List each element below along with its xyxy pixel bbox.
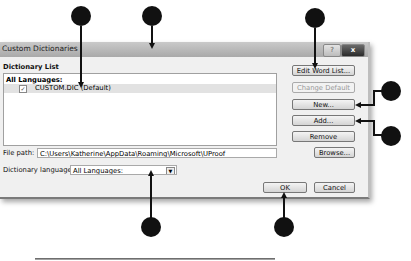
chevron-down-icon[interactable]: ▼: [166, 167, 175, 175]
edit-word-list-button[interactable]: Edit Word List...: [292, 65, 355, 76]
callout-marker-2: [142, 6, 162, 26]
browse-button[interactable]: Browse...: [314, 147, 355, 158]
dictionary-list[interactable]: All Languages: ✓ CUSTOM.DIC (Default): [3, 73, 277, 146]
dictionary-list-label: Dictionary List: [3, 63, 59, 71]
callout-line-2: [151, 26, 153, 44]
cancel-button[interactable]: Cancel: [314, 182, 355, 193]
dictionary-language-label: Dictionary language:: [3, 166, 74, 174]
callout-line-7: [283, 198, 285, 218]
arrowhead-7: [281, 192, 287, 198]
arrowhead-6: [148, 170, 154, 176]
add-button[interactable]: Add...: [292, 115, 355, 126]
callout-marker-5: [381, 126, 401, 146]
title-bar: Custom Dictionaries ? x: [0, 42, 368, 57]
group-header-all-languages: All Languages:: [6, 76, 63, 84]
dictionary-item-custom-dic[interactable]: ✓ CUSTOM.DIC (Default): [4, 84, 276, 93]
callout-line-5a: [373, 120, 375, 135]
callout-line-4b: [373, 90, 375, 105]
arrowhead-3: [312, 63, 318, 69]
arrowhead-4: [355, 102, 361, 108]
callout-marker-7: [274, 217, 294, 237]
callout-line-1: [80, 26, 82, 83]
dictionary-language-value: All Languages:: [73, 167, 123, 175]
callout-marker-3: [305, 8, 325, 28]
file-path-label: File path:: [3, 149, 34, 157]
remove-button[interactable]: Remove: [292, 131, 355, 142]
new-button[interactable]: New...: [292, 99, 355, 110]
dictionary-checkbox[interactable]: ✓: [19, 85, 27, 93]
callout-line-3: [314, 28, 316, 64]
arrowhead-2: [149, 43, 155, 49]
help-button[interactable]: ?: [323, 44, 341, 57]
callout-line-5b: [373, 134, 382, 136]
file-path-field[interactable]: C:\Users\Katherine\AppData\Roaming\Micro…: [37, 148, 277, 158]
close-button[interactable]: x: [341, 44, 365, 57]
callout-line-6: [150, 176, 152, 218]
callout-marker-1: [71, 6, 91, 26]
callout-marker-6: [141, 217, 161, 237]
divider: [35, 258, 275, 260]
callout-marker-4: [381, 81, 401, 101]
callout-line-5c: [360, 120, 375, 122]
dictionary-language-dropdown[interactable]: All Languages: ▼: [70, 165, 177, 175]
arrowhead-5: [355, 118, 361, 124]
callout-line-4c: [360, 104, 375, 106]
arrowhead-1: [78, 82, 84, 88]
dialog-title: Custom Dictionaries: [2, 44, 78, 53]
change-default-button[interactable]: Change Default: [292, 82, 355, 93]
dictionary-item-label: CUSTOM.DIC (Default): [35, 84, 111, 93]
